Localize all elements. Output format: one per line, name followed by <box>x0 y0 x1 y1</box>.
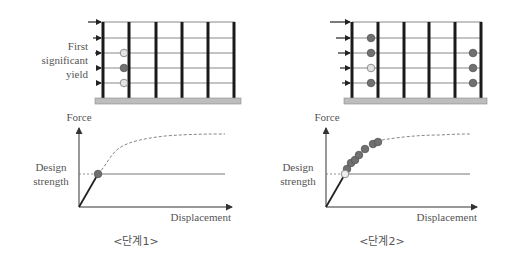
design-strength-label-line2: strength <box>33 175 69 187</box>
design-strength-label-line2: strength <box>280 175 316 187</box>
stage1-hinges <box>120 49 128 87</box>
first-yield-label-line1: First <box>68 40 88 52</box>
plastic-hinge-yielded <box>367 79 375 87</box>
stage2-frame <box>330 22 487 104</box>
curve-hinge-yielded <box>374 138 382 146</box>
foundation-base <box>95 98 241 104</box>
first-yield-label-line2: significant <box>42 54 88 66</box>
stage1-frame: First significant yield <box>42 22 241 104</box>
y-axis-label: Force <box>314 111 339 123</box>
plastic-hinge-yielded <box>469 49 477 57</box>
plastic-hinge-yielded <box>120 64 128 72</box>
plastic-hinge-first-yield <box>367 64 375 72</box>
curve-hinge-yielded <box>94 170 102 178</box>
stage1-caption: <단계1> <box>113 235 158 248</box>
first-yield-label-line3: yield <box>66 68 88 80</box>
pushover-curve-dashed <box>98 134 225 174</box>
x-axis-label: Displacement <box>417 211 477 223</box>
plastic-hinge-first-yield <box>120 79 128 87</box>
elastic-branch <box>79 174 98 207</box>
foundation-base <box>344 98 487 104</box>
stage2-capacity-curve: Force Displacement Design strength <box>280 111 477 223</box>
pushover-curve-dashed <box>382 134 470 140</box>
design-strength-label-line1: Design <box>35 161 67 173</box>
stage2-hinges <box>367 34 477 87</box>
stage1-capacity-curve: Force Displacement Design strength <box>33 111 232 223</box>
elastic-branch <box>326 174 345 207</box>
stage2-load-arrows <box>330 22 350 83</box>
plastic-hinge-yielded <box>469 79 477 87</box>
x-axis-label: Displacement <box>171 211 231 223</box>
plastic-hinge-yielded <box>367 49 375 57</box>
stage2-caption: <단계2> <box>359 235 404 248</box>
stage-diagram: First significant yield <box>0 0 512 262</box>
stage1-load-arrows <box>88 22 101 83</box>
design-strength-label-line1: Design <box>282 161 314 173</box>
plastic-hinge-first-yield <box>120 49 128 57</box>
plastic-hinge-yielded <box>367 34 375 42</box>
curve-hinge-yielded <box>355 151 363 159</box>
y-axis-label: Force <box>66 111 91 123</box>
curve-hinge-yielded <box>361 145 369 153</box>
plastic-hinge-yielded <box>469 64 477 72</box>
curve-hinge-first-yield <box>341 170 349 178</box>
